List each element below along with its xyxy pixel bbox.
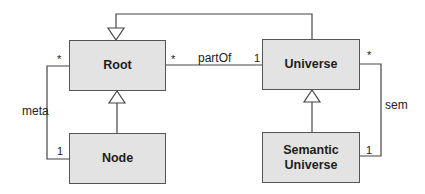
diagram-connectors: [0, 0, 425, 194]
meta-mult-root: *: [57, 54, 61, 65]
class-node-name: Node: [102, 151, 133, 166]
class-root: Root: [69, 40, 166, 91]
generalization-arrowhead-universe-bottom: [304, 90, 320, 102]
generalization-arrowhead-root-bottom: [109, 91, 125, 103]
sem-label: sem: [385, 99, 408, 111]
class-root-name: Root: [103, 58, 131, 73]
partof-label: partOf: [198, 52, 231, 64]
meta-mult-node: 1: [57, 146, 63, 157]
class-universe: Universe: [262, 39, 360, 90]
class-semantic-universe: Semantic Universe: [262, 132, 360, 183]
sem-mult-universe: *: [367, 50, 371, 61]
class-semantic-universe-name-line1: Semantic: [283, 143, 339, 158]
generalization-arrowhead-root-top: [108, 28, 124, 40]
generalization-universe-root-line: [116, 14, 312, 39]
partof-mult-root: *: [171, 54, 175, 65]
class-node: Node: [69, 133, 166, 184]
class-universe-name: Universe: [285, 57, 338, 72]
sem-mult-semantic-universe: 1: [366, 145, 372, 156]
meta-label: meta: [22, 105, 49, 117]
class-semantic-universe-name-line2: Universe: [285, 158, 338, 173]
association-sem-line: [359, 64, 381, 156]
partof-mult-universe: 1: [254, 53, 260, 64]
